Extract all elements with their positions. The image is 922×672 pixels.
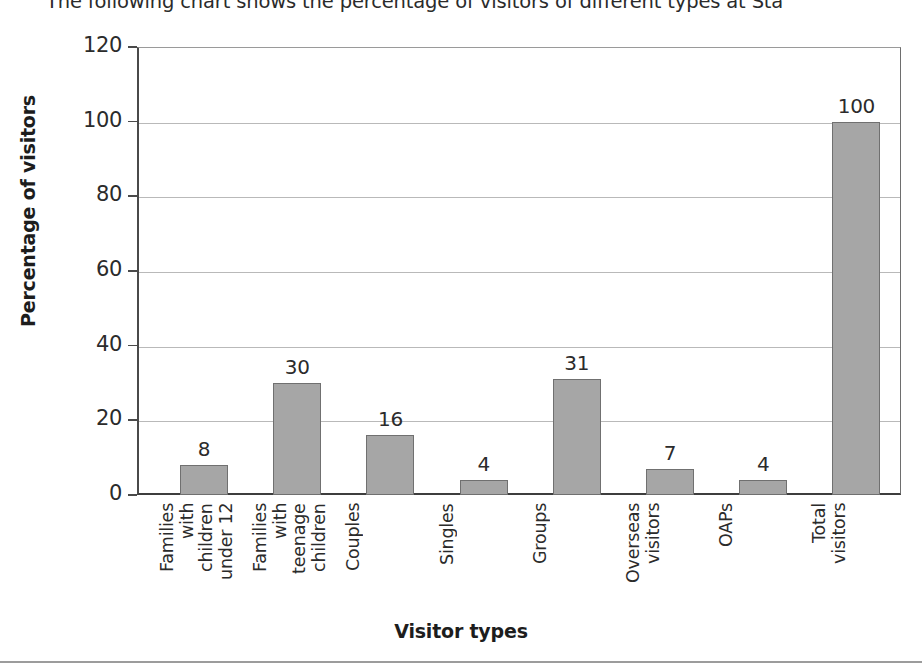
gridline — [139, 197, 900, 198]
y-axis-tick-label: 0 — [62, 481, 122, 505]
bar — [739, 480, 787, 495]
x-axis-title: Visitor types — [0, 620, 922, 642]
y-axis-tick-label: 100 — [62, 108, 122, 132]
plot-area — [137, 47, 901, 495]
bar-value-label: 30 — [257, 355, 337, 379]
bar — [460, 480, 508, 495]
bar-value-label: 7 — [630, 441, 710, 465]
bar — [366, 435, 414, 495]
x-axis-category-label: Families with children under 12 — [158, 503, 250, 608]
x-axis-category-label: Couples — [344, 503, 436, 608]
x-axis-category-label: Families with teenage children — [251, 503, 343, 608]
x-axis-category-label: Groups — [531, 503, 623, 608]
bar-value-label: 100 — [816, 94, 896, 118]
bar — [180, 465, 228, 495]
x-axis-category-label: Singles — [438, 503, 530, 608]
y-axis-tick-label: 40 — [62, 332, 122, 356]
y-axis-tick-label: 80 — [62, 182, 122, 206]
bar-value-label: 16 — [350, 407, 430, 431]
bar-value-label: 4 — [444, 452, 524, 476]
bar-chart: Percentage of visitors Visitor types 020… — [0, 0, 922, 672]
gridline — [139, 123, 900, 124]
bar — [646, 469, 694, 495]
y-axis-tick — [128, 494, 137, 496]
bar — [832, 122, 880, 495]
bar — [273, 383, 321, 495]
x-axis-category-label: Overseas visitors — [624, 503, 716, 608]
x-axis-category-label: OAPs — [717, 503, 809, 608]
bar-value-label: 31 — [537, 351, 617, 375]
y-axis-tick — [128, 46, 137, 48]
y-axis-tick-label: 20 — [62, 406, 122, 430]
x-axis-category-label: Total visitors — [810, 503, 902, 608]
gridline — [139, 347, 900, 348]
y-axis-title: Percentage of visitors — [17, 61, 39, 361]
bar — [553, 379, 601, 495]
y-axis-tick-label: 60 — [62, 257, 122, 281]
y-axis-tick — [128, 419, 137, 421]
y-axis-tick — [128, 270, 137, 272]
gridline — [139, 421, 900, 422]
y-axis-tick — [128, 345, 137, 347]
y-axis-tick — [128, 121, 137, 123]
y-axis-tick-label: 120 — [62, 33, 122, 57]
y-axis-tick — [128, 195, 137, 197]
bar-value-label: 8 — [164, 437, 244, 461]
bottom-divider — [0, 661, 922, 663]
gridline — [139, 272, 900, 273]
bar-value-label: 4 — [723, 452, 803, 476]
